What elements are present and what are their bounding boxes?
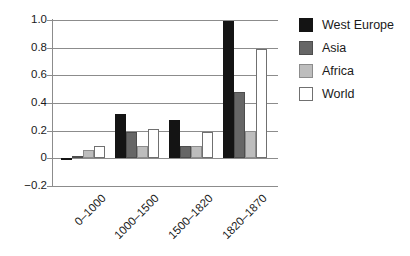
y-tick-label: 0.2 — [3, 125, 47, 137]
y-tick-label: 1.0 — [3, 14, 47, 26]
legend-label: West Europe — [322, 19, 394, 32]
legend-item-west-europe: West Europe — [299, 15, 407, 35]
legend-swatch-icon — [299, 18, 313, 32]
bar-africa — [191, 146, 202, 159]
legend-label: Africa — [322, 65, 354, 78]
y-tick-label: 0 — [3, 153, 47, 165]
x-tick-label: 1500–1820 — [166, 192, 215, 241]
y-tick-label: −0.2 — [3, 180, 47, 192]
legend-item-world: World — [299, 84, 407, 104]
bar-africa — [137, 146, 148, 159]
bar-africa — [83, 150, 94, 158]
x-tick-label: 0–1000 — [72, 192, 108, 228]
y-axis-labels: 1.0 0.8 0.6 0.4 0.2 0 −0.2 — [0, 0, 47, 256]
bar-west-europe — [169, 120, 180, 159]
bar-world — [94, 146, 105, 159]
legend-swatch-icon — [299, 87, 313, 101]
bar-group — [61, 20, 109, 186]
x-tick-label: 1000–1500 — [112, 192, 161, 241]
bar-africa — [245, 131, 256, 159]
bar-asia — [234, 92, 245, 158]
bar-chart-figure: 1.0 0.8 0.6 0.4 0.2 0 −0.2 — [0, 0, 410, 256]
bar-west-europe — [61, 158, 72, 160]
bar-world — [256, 49, 267, 158]
bar-west-europe — [223, 21, 234, 158]
legend-label: World — [322, 88, 354, 101]
y-tick-label: 0.4 — [3, 97, 47, 109]
bar-group — [169, 20, 217, 186]
bar-asia — [180, 146, 191, 159]
gridline — [53, 186, 278, 187]
bar-group — [115, 20, 163, 186]
legend-item-africa: Africa — [299, 61, 407, 81]
bar-west-europe — [115, 114, 126, 158]
chart-legend: West Europe Asia Africa World — [299, 15, 407, 107]
legend-item-asia: Asia — [299, 38, 407, 58]
bar-world — [202, 132, 213, 158]
y-tick-label: 0.8 — [3, 42, 47, 54]
bar-world — [148, 129, 159, 158]
legend-swatch-icon — [299, 64, 313, 78]
legend-label: Asia — [322, 42, 346, 55]
bar-asia — [126, 132, 137, 158]
bar-asia — [72, 156, 83, 158]
plot-area — [53, 20, 278, 186]
x-tick-label: 1820–1870 — [220, 192, 269, 241]
legend-swatch-icon — [299, 41, 313, 55]
bar-group — [223, 20, 271, 186]
y-tick-label: 0.6 — [3, 70, 47, 82]
